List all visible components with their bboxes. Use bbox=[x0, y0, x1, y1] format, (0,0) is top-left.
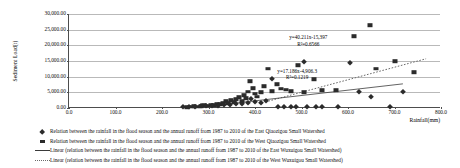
y-tick-label: 20,000.00 bbox=[44, 43, 66, 48]
legend-key-glyph bbox=[35, 160, 50, 161]
x-tick-label: 0.0 bbox=[66, 110, 73, 115]
r-squared-line: R²=0.6566 bbox=[289, 40, 327, 47]
x-tick-label: 400.0 bbox=[249, 110, 261, 115]
x-axis-title: Rainfall(mm) bbox=[69, 117, 440, 123]
data-point-square bbox=[351, 34, 356, 38]
r-squared-line: R²=0.1219 bbox=[277, 74, 317, 81]
data-point-square bbox=[289, 89, 294, 93]
data-point-square bbox=[246, 90, 251, 94]
legend-key-glyph bbox=[35, 150, 50, 151]
legend-marker-solid-line-icon bbox=[34, 150, 50, 151]
legend-marker-diamond-icon bbox=[34, 130, 50, 134]
legend-label: Relation between the rainfall in the flo… bbox=[50, 139, 326, 144]
legend-item[interactable]: Linear (relation between the rainfall in… bbox=[34, 156, 458, 166]
y-tick-label: 10,000.00 bbox=[44, 74, 66, 79]
legend-marker-square-icon bbox=[34, 140, 50, 144]
y-axis-title-text: Sediment Load(t) bbox=[12, 41, 18, 82]
legend-item[interactable]: Relation between the rainfall in the flo… bbox=[34, 127, 458, 137]
west-equation-annotation: y=17.186x-4,906.3R²=0.1219 bbox=[277, 67, 317, 80]
data-point-square bbox=[274, 82, 279, 86]
data-point-square bbox=[301, 90, 306, 94]
legend-item[interactable]: Relation between the rainfall in the flo… bbox=[34, 137, 458, 147]
data-point-square bbox=[254, 95, 259, 99]
data-point-square bbox=[320, 88, 325, 92]
legend-item[interactable]: Linear (relation between the rainfall in… bbox=[34, 146, 458, 156]
scatter-chart: Sediment Load(t) 0.005,000.0010,000.0015… bbox=[0, 0, 460, 168]
data-point-square bbox=[265, 67, 270, 71]
x-tick-label: 300.0 bbox=[202, 110, 214, 115]
data-point-square bbox=[412, 70, 417, 74]
data-point-square bbox=[283, 88, 288, 92]
legend-marker-dotted-line-icon bbox=[34, 160, 50, 161]
y-tick-label: 15,000.00 bbox=[44, 58, 66, 63]
x-tick-label: 600.0 bbox=[342, 110, 354, 115]
data-point-square bbox=[258, 90, 263, 94]
legend-label: Relation between the rainfall in the flo… bbox=[50, 129, 325, 134]
legend-key-glyph bbox=[40, 140, 45, 144]
y-tick-label: 5,000.00 bbox=[47, 90, 66, 95]
data-point-square bbox=[368, 23, 373, 27]
data-point-square bbox=[392, 59, 397, 63]
data-point-square bbox=[270, 89, 275, 93]
legend-key-glyph bbox=[39, 129, 45, 135]
east-equation-annotation: y=40.211x-15,397R²=0.6566 bbox=[289, 34, 327, 47]
y-tick-label: 30,000.00 bbox=[44, 11, 66, 16]
chart-legend: Relation between the rainfall in the flo… bbox=[34, 127, 458, 165]
data-point-square bbox=[250, 86, 255, 90]
data-point-square bbox=[334, 88, 339, 92]
equation-line: y=40.211x-15,397 bbox=[289, 34, 327, 41]
plot-area: 0.005,000.0010,000.0015,000.0020,000.002… bbox=[68, 14, 440, 108]
x-tick-label: 100.0 bbox=[109, 110, 121, 115]
data-point-square bbox=[261, 85, 266, 89]
legend-label: Linear (relation between the rainfall in… bbox=[50, 148, 342, 153]
y-tick-label: 0.00 bbox=[57, 105, 66, 110]
y-axis-title: Sediment Load(t) bbox=[10, 14, 20, 108]
data-point-square bbox=[248, 79, 253, 83]
y-tick-label: 25,000.00 bbox=[44, 27, 66, 32]
x-tick-label: 200.0 bbox=[156, 110, 168, 115]
x-tick-label: 500.0 bbox=[295, 110, 307, 115]
x-tick-label: 700.0 bbox=[388, 110, 400, 115]
data-point-square bbox=[374, 67, 379, 71]
x-tick-label: 800.0 bbox=[435, 110, 447, 115]
equation-line: y=17.186x-4,906.3 bbox=[277, 67, 317, 74]
legend-label: Linear (relation between the rainfall in… bbox=[50, 158, 343, 163]
